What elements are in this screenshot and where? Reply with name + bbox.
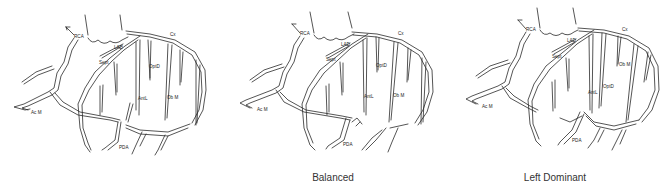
label-obm: Ob M [393,93,404,98]
label-optd: OptD [376,63,387,68]
label-pda: PDA [119,145,129,150]
label-obm: Ob M [619,62,630,67]
label-rca: RCA [74,34,85,39]
panel-caption: Balanced [222,172,444,183]
label-sept: Sept [326,57,336,62]
label-sept: Sept [99,60,109,65]
label-rca: RCA [300,31,311,36]
label-rca: RCA [526,27,537,32]
label-acm: Ac M [31,110,42,115]
label-lad: LAD [567,38,577,43]
label-acm: Ac M [482,104,493,109]
coronary-artery-drawing: RCA LAD Cx Sept OptD AntL Ob M Ac M PDA [222,0,444,183]
coronary-artery-drawing: RCA LAD Cx Sept OptD AntL Ob M Ac M PDA [444,0,666,183]
label-lad: LAD [114,45,124,50]
label-obm: Ob M [167,95,178,100]
label-pda: PDA [572,138,582,143]
label-cx: Cx [622,27,628,32]
label-antl: AntL [364,94,374,99]
label-acm: Ac M [257,107,268,112]
label-lad: LAD [341,42,351,47]
coronary-diagram-panel-1: RCA LAD Cx Sept OptD AntL Ob M Ac M PDA [0,0,222,183]
label-optd: OptD [149,64,160,69]
coronary-diagram-panel-3: RCA LAD Cx Sept OptD AntL Ob M Ac M PDA … [444,0,666,183]
panel-caption: Left Dominant [444,172,666,183]
label-cx: Cx [170,32,176,37]
coronary-diagram-panel-2: RCA LAD Cx Sept OptD AntL Ob M Ac M PDA … [222,0,444,183]
label-sept: Sept [552,54,562,59]
label-antl: AntL [588,90,598,95]
label-antl: AntL [138,96,148,101]
label-pda: PDA [343,142,353,147]
label-optd: OptD [603,84,614,89]
coronary-artery-drawing: RCA LAD Cx Sept OptD AntL Ob M Ac M PDA [0,0,222,183]
label-cx: Cx [398,31,404,36]
